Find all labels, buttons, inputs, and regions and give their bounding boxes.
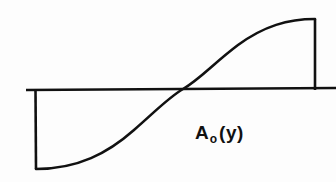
- sigmoid-profile-curve: [36, 19, 315, 169]
- figure-drawing: [0, 0, 336, 182]
- curve-label-argument: (y): [219, 122, 244, 143]
- curve-label-subscript: o: [210, 132, 218, 146]
- curve-label-base: A: [195, 122, 209, 143]
- curve-label: Ao(y): [195, 123, 244, 145]
- figure-container: Ao(y): [0, 0, 336, 182]
- left-vertical-bound-line: [36, 89, 37, 169]
